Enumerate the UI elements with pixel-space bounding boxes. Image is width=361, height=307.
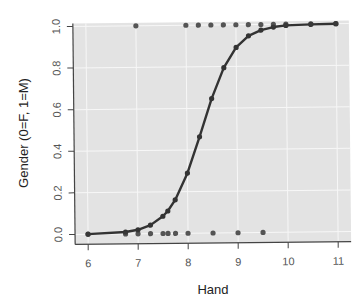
x-tick-label: 6 — [85, 257, 91, 269]
x-tick-label: 10 — [282, 255, 294, 267]
x-tick-label: 9 — [235, 256, 241, 268]
x-tick-label: 7 — [135, 257, 141, 269]
y-tick-label: 0.0 — [52, 227, 64, 242]
y-tick-label: 0.6 — [51, 102, 63, 117]
x-tick-label: 8 — [185, 256, 191, 268]
plot-panel — [73, 21, 351, 245]
y-axis-title: Gender (0=F, 1=M) — [16, 78, 31, 188]
y-axis-ticks: 0.00.20.40.60.81.0 — [50, 19, 75, 243]
x-tick-label: 11 — [333, 255, 345, 267]
x-axis-title: Hand — [197, 282, 228, 297]
y-tick-label: 0.2 — [52, 185, 64, 200]
y-tick-label: 1.0 — [50, 19, 62, 34]
y-tick-label: 0.4 — [51, 144, 63, 159]
y-tick-label: 0.8 — [50, 61, 62, 76]
logistic-regression-chart: 67891011 0.00.20.40.60.81.0 Hand Gender … — [0, 0, 361, 307]
x-axis-ticks: 67891011 — [85, 242, 344, 270]
